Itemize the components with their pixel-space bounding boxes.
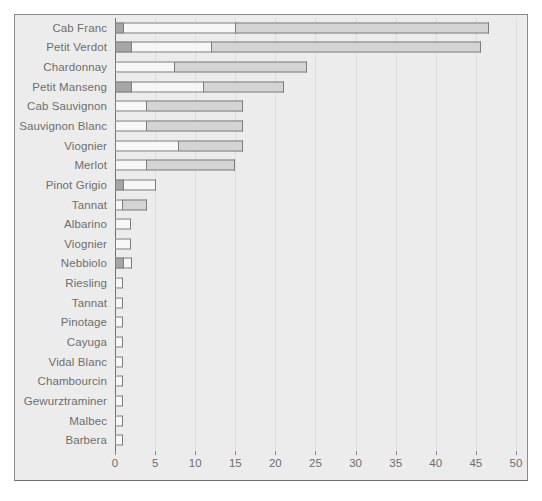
bar-segment-3 (123, 199, 147, 210)
stacked-bar (115, 101, 243, 112)
bar-segment-1 (115, 22, 124, 33)
bar-rows: Cab FrancPetit VerdotChardonnayPetit Man… (115, 18, 528, 450)
stacked-bar (115, 42, 481, 53)
bar-row: Sauvignon Blanc (115, 116, 528, 136)
stacked-bar (115, 395, 123, 406)
bar-segment-2 (115, 219, 131, 230)
stacked-bar (115, 160, 235, 171)
category-label: Nebbiolo (61, 257, 107, 269)
x-tick-label: 35 (389, 457, 402, 469)
x-tick-label: 25 (309, 457, 322, 469)
bar-segment-3 (212, 42, 481, 53)
x-tick-mark (516, 451, 517, 455)
bar-row: Albarino (115, 214, 528, 234)
stacked-bar (115, 238, 131, 249)
x-tick-label: 0 (112, 457, 118, 469)
bar-segment-2 (115, 160, 147, 171)
x-axis-line (15, 480, 528, 481)
x-tick-label: 50 (510, 457, 523, 469)
x-tick-mark (315, 451, 316, 455)
bar-segment-1 (115, 81, 132, 92)
stacked-bar (115, 336, 123, 347)
bar-segment-3 (147, 120, 243, 131)
bar-row: Chambourcin (115, 371, 528, 391)
bar-segment-2 (124, 258, 132, 269)
category-label: Chambourcin (38, 375, 108, 387)
bar-row: Barbera (115, 430, 528, 450)
stacked-bar (115, 317, 123, 328)
bar-segment-2 (115, 336, 123, 347)
bar-segment-3 (147, 160, 235, 171)
bar-row: Petit Manseng (115, 77, 528, 97)
bar-segment-3 (179, 140, 243, 151)
x-tick-mark (476, 451, 477, 455)
x-tick-label: 40 (429, 457, 442, 469)
bar-segment-2 (115, 435, 123, 446)
bar-segment-2 (115, 297, 123, 308)
bar-segment-3 (204, 81, 284, 92)
bar-row: Vidal Blanc (115, 352, 528, 372)
bar-row: Cayuga (115, 332, 528, 352)
x-axis: 05101520253035404550 (115, 451, 528, 481)
category-label: Viognier (64, 238, 107, 250)
category-label: Sauvignon Blanc (19, 120, 107, 132)
bar-segment-3 (236, 22, 489, 33)
category-label: Riesling (65, 277, 107, 289)
stacked-bar (115, 140, 243, 151)
bar-row: Tannat (115, 195, 528, 215)
x-tick-mark (155, 451, 156, 455)
bar-segment-2 (115, 62, 175, 73)
bar-segment-3 (175, 62, 307, 73)
stacked-bar (115, 278, 123, 289)
x-tick-mark (275, 451, 276, 455)
bar-segment-2 (115, 120, 147, 131)
category-label: Cayuga (67, 336, 107, 348)
stacked-bar (115, 62, 307, 73)
bar-segment-2 (132, 42, 212, 53)
x-tick-mark (396, 451, 397, 455)
bar-row: Cab Franc (115, 18, 528, 38)
stacked-bar (115, 297, 123, 308)
category-label: Pinotage (61, 316, 107, 328)
stacked-bar (115, 120, 243, 131)
category-label: Petit Manseng (32, 81, 107, 93)
stacked-bar (115, 415, 123, 426)
bar-segment-1 (115, 42, 132, 53)
category-label: Petit Verdot (46, 41, 107, 53)
bar-segment-3 (147, 101, 243, 112)
x-tick-mark (115, 451, 116, 455)
bar-segment-2 (115, 376, 123, 387)
category-label: Albarino (64, 218, 107, 230)
category-label: Merlot (74, 159, 107, 171)
x-tick-mark (195, 451, 196, 455)
bar-segment-2 (115, 356, 123, 367)
bar-row: Tannat (115, 293, 528, 313)
plot-area: Cab FrancPetit VerdotChardonnayPetit Man… (115, 18, 528, 450)
x-tick-mark (235, 451, 236, 455)
stacked-bar (115, 258, 132, 269)
bar-row: Merlot (115, 155, 528, 175)
bar-row: Nebbiolo (115, 254, 528, 274)
category-label: Barbera (65, 434, 107, 446)
bar-row: Pinotage (115, 313, 528, 333)
bar-segment-2 (115, 278, 123, 289)
bar-row: Chardonnay (115, 57, 528, 77)
category-label: Vidal Blanc (49, 356, 107, 368)
category-label: Cab Franc (52, 22, 107, 34)
bar-row: Viognier (115, 136, 528, 156)
bar-segment-2 (115, 395, 123, 406)
bar-row: Viognier (115, 234, 528, 254)
category-label: Tannat (72, 199, 107, 211)
category-label: Viognier (64, 140, 107, 152)
bar-segment-2 (115, 238, 131, 249)
bar-segment-2 (115, 317, 123, 328)
stacked-bar (115, 376, 123, 387)
stacked-bar (115, 219, 131, 230)
x-tick-mark (356, 451, 357, 455)
bar-row: Pinot Grigio (115, 175, 528, 195)
category-label: Gewurztraminer (24, 395, 107, 407)
bar-segment-1 (115, 179, 124, 190)
bar-segment-1 (115, 258, 124, 269)
category-label: Chardonnay (43, 61, 107, 73)
category-label: Malbec (69, 415, 107, 427)
